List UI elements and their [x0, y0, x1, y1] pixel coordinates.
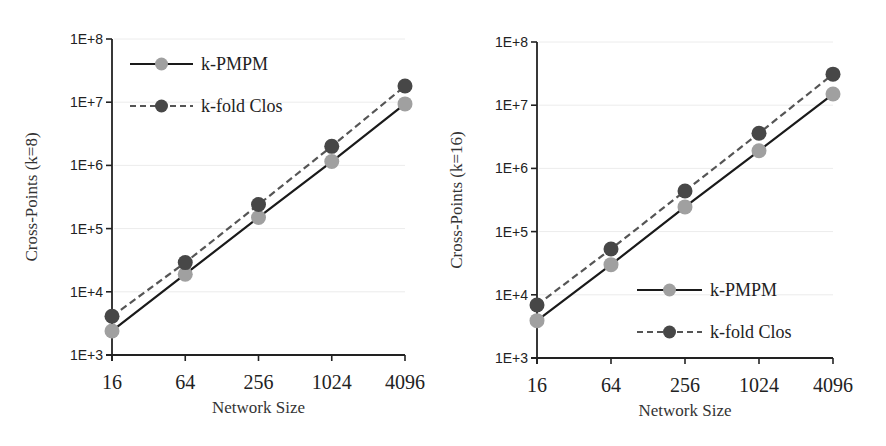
y-axis-title: Cross-Points (k=16) [447, 131, 466, 269]
data-point-k-fold-clos [105, 309, 120, 324]
y-tick-label: 1E+6 [495, 160, 528, 176]
legend-marker-k-fold-clos [155, 100, 168, 113]
data-point-k-pmpm [678, 199, 693, 214]
legend: k-PMPMk-fold Clos [637, 280, 792, 342]
y-tick-label: 1E+5 [495, 224, 528, 240]
data-point-k-fold-clos [324, 139, 339, 154]
legend-marker-k-pmpm [155, 58, 168, 71]
x-tick-label: 4096 [385, 371, 425, 393]
data-point-k-pmpm [826, 87, 841, 102]
y-tick-label: 1E+4 [495, 287, 528, 303]
legend-label: k-fold Clos [710, 322, 792, 342]
data-point-k-fold-clos [398, 79, 413, 94]
y-tick-label: 1E+3 [70, 347, 103, 363]
x-tick-label: 1024 [312, 371, 352, 393]
data-point-k-pmpm [398, 96, 413, 111]
y-tick-label: 1E+5 [70, 221, 103, 237]
x-tick-label: 256 [670, 374, 700, 396]
y-axis-title: Cross-Points (k=8) [22, 132, 41, 261]
data-point-k-pmpm [324, 154, 339, 169]
y-tick-label: 1E+8 [495, 34, 528, 50]
legend-marker-k-fold-clos [663, 326, 676, 339]
x-axis-title: Network Size [212, 398, 305, 417]
data-point-k-fold-clos [251, 197, 266, 212]
chart-panel-1: 1E+31E+41E+51E+61E+71E+8166425610244096N… [22, 31, 425, 417]
x-tick-label: 16 [102, 371, 122, 393]
x-tick-label: 256 [244, 371, 274, 393]
y-tick-label: 1E+7 [70, 94, 103, 110]
data-point-k-pmpm [752, 143, 767, 158]
data-point-k-fold-clos [178, 255, 193, 270]
data-point-k-fold-clos [678, 183, 693, 198]
x-tick-label: 16 [527, 374, 547, 396]
legend-label: k-fold Clos [201, 96, 283, 116]
x-axis-title: Network Size [638, 401, 731, 420]
data-point-k-fold-clos [530, 297, 545, 312]
data-point-k-pmpm [604, 257, 619, 272]
data-point-k-pmpm [251, 210, 266, 225]
chart-panel-2: 1E+31E+41E+51E+61E+71E+8166425610244096N… [447, 34, 853, 420]
data-point-k-pmpm [105, 323, 120, 338]
data-point-k-pmpm [530, 313, 545, 328]
legend: k-PMPMk-fold Clos [130, 54, 283, 116]
x-tick-label: 64 [175, 371, 195, 393]
legend-marker-k-pmpm [663, 284, 676, 297]
x-tick-label: 4096 [813, 374, 853, 396]
y-tick-label: 1E+4 [70, 284, 103, 300]
data-point-k-fold-clos [604, 242, 619, 257]
legend-label: k-PMPM [710, 280, 777, 300]
y-tick-label: 1E+8 [70, 31, 103, 47]
y-tick-label: 1E+3 [495, 350, 528, 366]
y-tick-label: 1E+7 [495, 97, 528, 113]
x-tick-label: 1024 [739, 374, 779, 396]
x-tick-label: 64 [601, 374, 621, 396]
data-point-k-fold-clos [826, 67, 841, 82]
legend-label: k-PMPM [201, 54, 268, 74]
y-tick-label: 1E+6 [70, 157, 103, 173]
data-point-k-fold-clos [752, 126, 767, 141]
chart-figure: 1E+31E+41E+51E+61E+71E+8166425610244096N… [0, 0, 886, 446]
